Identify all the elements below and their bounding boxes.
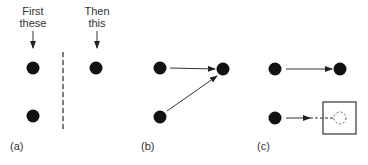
dot [217,63,230,76]
arrow-icon [167,76,217,111]
panel-a [27,31,103,131]
dot [269,63,282,76]
panel-label-a: (a) [10,140,23,152]
dot [27,62,40,75]
dot [154,111,167,124]
dot [27,110,40,123]
arrow-icon [170,68,215,69]
panel-label-c: (c) [257,140,270,152]
dot [90,62,103,75]
dot [334,63,347,76]
panel-label-b: (b) [141,140,154,152]
dot [269,112,282,125]
panel-c [269,63,357,135]
dashed-circle [334,112,346,124]
diagram-canvas [0,0,368,165]
dot [154,62,167,75]
panel-b [154,62,230,124]
